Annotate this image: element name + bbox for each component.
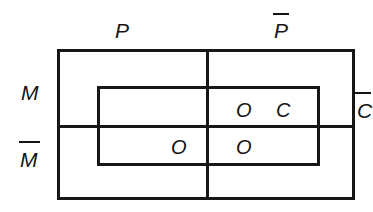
region-label-c-complement: C bbox=[357, 100, 372, 121]
overbar-c-complement bbox=[353, 92, 371, 94]
cell-mark-o-mbar-pbar: O bbox=[236, 137, 252, 157]
row-label-m-complement: M bbox=[20, 149, 38, 170]
column-label-p: P bbox=[115, 20, 129, 41]
cell-mark-o-m-pbar: O bbox=[236, 100, 252, 120]
overbar-p-complement bbox=[273, 13, 289, 15]
horizontal-divider-m bbox=[57, 125, 355, 128]
row-label-m: M bbox=[21, 82, 39, 103]
overbar-m-complement bbox=[19, 141, 40, 143]
logic-diagram-canvas: P P M M C O C O O bbox=[0, 0, 373, 212]
cell-mark-o-mbar-p: O bbox=[171, 137, 187, 157]
column-label-p-complement: P bbox=[274, 20, 288, 41]
cell-mark-c-m-pbar: C bbox=[276, 100, 290, 120]
